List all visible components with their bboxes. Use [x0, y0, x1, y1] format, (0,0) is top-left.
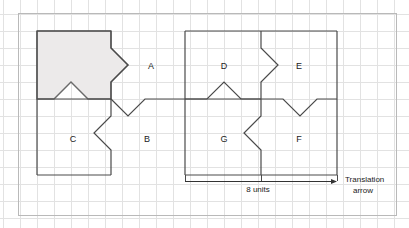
shape-label-b: B	[144, 134, 150, 144]
tessellation-translation-diagram: ABCDEFG 8 units Translation arrow	[0, 0, 409, 228]
shape-label-a: A	[148, 61, 154, 71]
shape-label-g: G	[220, 134, 227, 144]
figure-canvas: ABCDEFG 8 units Translation arrow	[0, 0, 409, 228]
shape-label-d: D	[221, 61, 228, 71]
translation-arrow-label-line1: Translation	[345, 175, 384, 184]
shape-label-f: F	[296, 134, 302, 144]
measure-label: 8 units	[246, 185, 270, 194]
translation-arrow-label-line2: arrow	[353, 186, 373, 195]
shape-label-c: C	[70, 134, 77, 144]
shape-label-e: E	[296, 61, 302, 71]
